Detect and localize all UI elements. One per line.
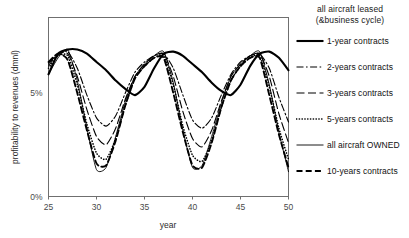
legend-line-sample — [296, 35, 324, 47]
y-tick-labels: 0%5% — [30, 88, 43, 201]
legend-item: 1-year contracts — [296, 28, 409, 54]
legend-item-label: 3-years contracts — [327, 88, 393, 98]
legend-item-label: all aircraft OWNED — [327, 140, 400, 150]
chart-figure: 253035404550 0%5% year profitability to … — [0, 0, 409, 238]
legend-line-sample — [296, 139, 324, 151]
y-axis-label: profitability to revenues (dmnl) — [10, 50, 20, 164]
x-tick-label: 50 — [284, 202, 294, 212]
legend-title-line-1: all aircraft leased — [296, 4, 404, 15]
legend-title-line-2: (&business cycle) — [296, 15, 404, 26]
legend-item-label: 1-year contracts — [327, 36, 389, 46]
x-tick-label: 25 — [44, 202, 54, 212]
legend-item-label: 2-years contracts — [327, 62, 393, 72]
plot-frame — [49, 18, 289, 197]
legend-item: 2-years contracts — [296, 54, 409, 80]
legend-line-sample — [296, 61, 324, 73]
x-tick-label: 35 — [140, 202, 150, 212]
x-tick-label: 30 — [92, 202, 102, 212]
legend-item-label: 5-years contracts — [327, 114, 393, 124]
legend-item-label: 10-years contracts — [327, 166, 398, 176]
x-tick-labels: 253035404550 — [44, 202, 294, 212]
legend-items: 1-year contracts2-years contracts3-years… — [296, 28, 409, 184]
legend-item: 10-years contracts — [296, 158, 409, 184]
x-axis-label: year — [160, 220, 177, 230]
legend-item: 5-years contracts — [296, 106, 409, 132]
legend-item: all aircraft OWNED — [296, 132, 409, 158]
legend-line-sample — [296, 87, 324, 99]
x-tick-label: 40 — [188, 202, 198, 212]
legend-title: all aircraft leased (&business cycle) — [296, 4, 404, 26]
x-tick-label: 45 — [236, 202, 246, 212]
legend-line-sample — [296, 165, 324, 177]
legend-item: 3-years contracts — [296, 80, 409, 106]
y-tick-label: 0% — [30, 192, 43, 202]
y-tick-label: 5% — [30, 88, 43, 98]
legend-line-sample — [296, 113, 324, 125]
chart-legend: all aircraft leased (&business cycle) 1-… — [296, 4, 409, 209]
data-series-group — [49, 49, 289, 172]
